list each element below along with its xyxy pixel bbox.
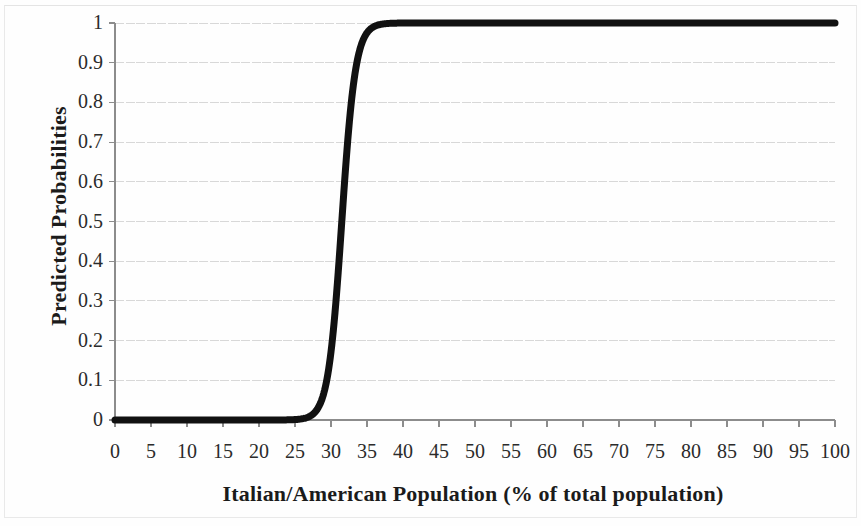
- y-tick-label: 0.9: [47, 52, 103, 72]
- y-tick-label: 0: [47, 409, 103, 429]
- x-tick-label: 100: [812, 441, 858, 461]
- y-tick-label: 1: [47, 12, 103, 32]
- tickmarks-group: [109, 23, 835, 427]
- gridlines-group: [115, 23, 835, 420]
- figure-canvas: 10.90.80.70.60.50.40.30.20.10 0510152025…: [0, 0, 861, 526]
- y-axis-title: Predicted Probabilities: [46, 71, 72, 361]
- y-tick-label: 0.1: [47, 369, 103, 389]
- x-axis-title: Italian/American Population (% of total …: [110, 481, 836, 507]
